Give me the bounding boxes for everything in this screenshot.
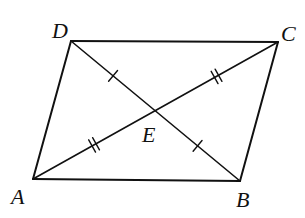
tick-mark-eb <box>193 140 202 151</box>
side-bc <box>240 42 278 181</box>
diagonal-bd <box>71 41 240 181</box>
vertex-label-a: A <box>9 184 25 209</box>
side-ab <box>33 179 240 181</box>
vertex-label-d: D <box>51 18 68 43</box>
vertex-label-c: C <box>281 21 296 46</box>
side-cd <box>71 41 278 42</box>
tick-mark-de <box>109 70 118 81</box>
diagonals-group <box>33 41 278 181</box>
vertex-label-b: B <box>236 187 249 212</box>
side-da <box>33 41 71 179</box>
vertex-labels: D C A B E <box>9 18 296 212</box>
intersection-label-e: E <box>141 122 156 147</box>
parallelogram-diagram: D C A B E <box>0 0 305 218</box>
